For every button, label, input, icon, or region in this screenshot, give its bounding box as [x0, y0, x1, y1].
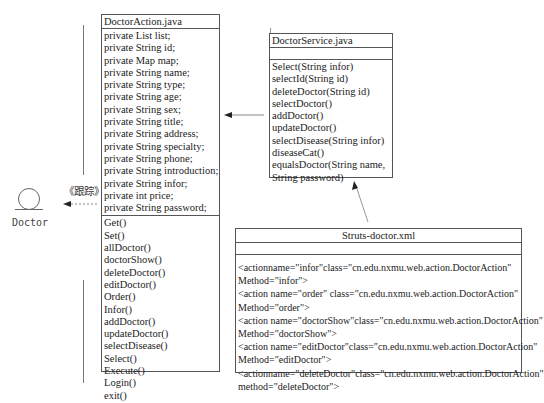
arrowhead-icon	[224, 112, 232, 118]
arrowhead-icon	[63, 201, 71, 207]
method-line: exit()	[104, 390, 217, 402]
xml-to-service-arrow	[356, 186, 368, 222]
